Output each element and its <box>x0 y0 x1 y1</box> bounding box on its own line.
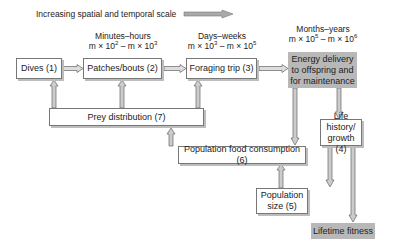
node-life-history: Life history/ growth (4) <box>320 119 362 146</box>
scale-arrow-icon <box>184 10 233 18</box>
node-patches: Patches/bouts (2) <box>83 58 162 79</box>
scale-minutes-hours: Minutes–hours m × 102 – m × 103 <box>84 31 162 51</box>
scale-range: m × 103 – m × 105 <box>184 41 260 51</box>
scale-range: m × 105 – m × 106 <box>283 34 363 44</box>
scale-days-weeks: Days–weeks m × 103 – m × 105 <box>184 31 260 51</box>
scale-period: Days–weeks <box>184 31 260 41</box>
arrow-popsize-consumption <box>277 164 285 188</box>
node-energy-delivery: Energy delivery to offspring and for mai… <box>288 52 357 88</box>
arrow-lifehistory-fitness <box>349 146 357 222</box>
scale-period: Minutes–hours <box>84 31 162 41</box>
node-foraging-trip: Foraging trip (3) <box>186 58 257 79</box>
node-lifetime-fitness: Lifetime fitness <box>311 223 375 239</box>
arrow-energy-consumption <box>291 88 299 145</box>
node-population-food-consumption: Population food consumption (6) <box>178 146 306 164</box>
arrow-prey-foraging <box>194 80 202 108</box>
scale-period: Months–years <box>283 24 363 34</box>
node-population-size: Population size (5) <box>256 188 308 214</box>
node-dives: Dives (1) <box>16 58 62 79</box>
node-prey-distribution: Prey distribution (7) <box>49 108 204 126</box>
arrow-consumption-prey <box>167 128 175 146</box>
arrow-prey-dives <box>50 80 58 108</box>
arrow-dives-patches <box>63 65 83 73</box>
arrow-prey-patches <box>118 80 126 108</box>
scale-months-years: Months–years m × 105 – m × 106 <box>283 24 363 44</box>
arrow-patches-foraging <box>164 65 186 73</box>
scale-range: m × 102 – m × 103 <box>84 41 162 51</box>
arrow-foraging-energy <box>259 65 288 73</box>
